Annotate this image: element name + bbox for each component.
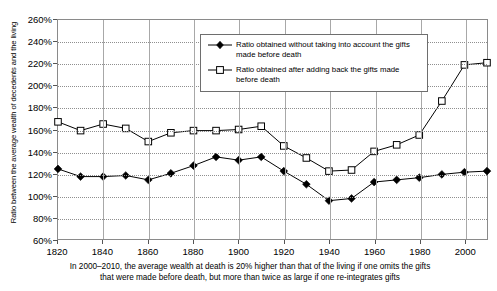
gridline-horizontal bbox=[58, 175, 487, 176]
filled-diamond-marker-icon bbox=[302, 180, 310, 188]
filled-diamond-marker-icon bbox=[370, 178, 378, 186]
x-tick-label: 1860 bbox=[137, 246, 158, 257]
x-tick-mark bbox=[329, 240, 330, 244]
x-tick-mark bbox=[193, 240, 194, 244]
open-square-marker-icon bbox=[326, 168, 333, 175]
filled-diamond-marker-icon bbox=[393, 176, 401, 184]
y-tick-label: 80% bbox=[33, 212, 52, 223]
x-tick-mark bbox=[57, 240, 58, 244]
open-square-marker-icon bbox=[207, 65, 233, 75]
gridline-vertical bbox=[103, 20, 104, 239]
y-tick-label: 220% bbox=[28, 58, 52, 69]
gridline-horizontal bbox=[58, 197, 487, 198]
x-axis-ticks: 1820184018601880190019201940196019802000 bbox=[57, 240, 488, 260]
x-tick-label: 1840 bbox=[92, 246, 113, 257]
chart-caption: In 2000–2010, the average wealth at deat… bbox=[40, 261, 460, 283]
legend-label-1: Ratio obtained after adding back the gif… bbox=[236, 65, 421, 85]
x-tick-label: 2000 bbox=[455, 246, 476, 257]
y-tick-label: 160% bbox=[28, 124, 52, 135]
filled-diamond-marker-icon bbox=[325, 197, 333, 205]
gridline-horizontal bbox=[58, 219, 487, 220]
gridline-horizontal bbox=[58, 131, 487, 132]
y-axis-title: Ratio between the average wealth of dece… bbox=[9, 6, 18, 240]
x-tick-label: 1920 bbox=[273, 246, 294, 257]
caption-line-1: In 2000–2010, the average wealth at deat… bbox=[40, 261, 460, 272]
open-square-marker-icon bbox=[281, 143, 288, 150]
filled-diamond-marker-icon bbox=[54, 165, 62, 173]
gridline-horizontal bbox=[58, 153, 487, 154]
open-square-marker-icon bbox=[393, 142, 400, 149]
x-tick-label: 1880 bbox=[183, 246, 204, 257]
x-tick-label: 1980 bbox=[409, 246, 430, 257]
open-square-marker-icon bbox=[303, 155, 310, 162]
gridline-horizontal bbox=[58, 108, 487, 109]
x-tick-mark bbox=[465, 240, 466, 244]
y-tick-label: 140% bbox=[28, 146, 52, 157]
legend-item-1: Ratio obtained after adding back the gif… bbox=[207, 65, 421, 85]
open-square-marker-icon bbox=[55, 119, 62, 126]
x-tick-mark bbox=[102, 240, 103, 244]
filled-diamond-marker-icon bbox=[207, 40, 233, 50]
open-square-marker-icon bbox=[439, 98, 446, 105]
gridline-vertical bbox=[194, 20, 195, 239]
filled-diamond-marker-icon bbox=[167, 169, 175, 177]
y-tick-label: 100% bbox=[28, 190, 52, 201]
chart-figure: Ratio between the average wealth of dece… bbox=[0, 0, 497, 291]
y-tick-label: 260% bbox=[28, 14, 52, 25]
filled-diamond-marker-icon bbox=[257, 153, 265, 161]
y-tick-label: 120% bbox=[28, 168, 52, 179]
y-tick-label: 180% bbox=[28, 102, 52, 113]
x-tick-mark bbox=[238, 240, 239, 244]
y-tick-label: 240% bbox=[28, 36, 52, 47]
y-tick-label: 200% bbox=[28, 80, 52, 91]
filled-diamond-marker-icon bbox=[348, 195, 356, 203]
x-tick-label: 1940 bbox=[319, 246, 340, 257]
x-tick-mark bbox=[284, 240, 285, 244]
gridline-vertical bbox=[149, 20, 150, 239]
series-line bbox=[58, 157, 487, 201]
x-tick-label: 1960 bbox=[364, 246, 385, 257]
y-tick-label: 60% bbox=[33, 235, 52, 246]
x-tick-label: 1900 bbox=[228, 246, 249, 257]
open-square-marker-icon bbox=[258, 123, 265, 130]
x-tick-label: 1820 bbox=[46, 246, 67, 257]
x-tick-mark bbox=[420, 240, 421, 244]
legend-item-0: Ratio obtained without taking into accou… bbox=[207, 40, 421, 60]
gridline-vertical bbox=[466, 20, 467, 239]
caption-line-2: that were made before death, but more th… bbox=[40, 272, 460, 283]
legend-label-0: Ratio obtained without taking into accou… bbox=[236, 40, 421, 60]
x-tick-mark bbox=[375, 240, 376, 244]
open-square-marker-icon bbox=[348, 167, 355, 174]
chart-legend: Ratio obtained without taking into accou… bbox=[200, 34, 428, 92]
x-tick-mark bbox=[148, 240, 149, 244]
filled-diamond-marker-icon bbox=[212, 153, 220, 161]
